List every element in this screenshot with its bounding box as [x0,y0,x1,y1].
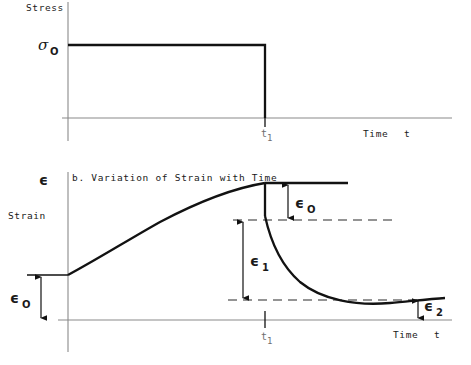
time-word: Time [393,329,418,340]
panel-b-group: b. Variation of Strain with Time ϵ Strai… [8,172,452,352]
time-symbol: t [434,329,440,340]
panel-b-y-axis-label: Strain [8,210,46,221]
dimension-eps0-right: ϵ O [288,185,316,218]
sigma-symbol: σ [38,36,49,54]
delayed-recovery-curve [265,216,445,304]
dimension-eps0-left: ϵ O [10,275,68,318]
eps1-symbol: ϵ [250,253,259,269]
stress-step-curve [68,45,265,118]
eps0-left-subscript: O [22,299,31,310]
panel-a-sigma0-label: σ O [38,36,59,57]
panel-b-y-axis-symbol: ϵ [39,172,48,188]
sigma-subscript: O [50,46,59,57]
panel-a-x-axis-label: Time t [363,128,410,139]
diagram-canvas: Stress σ O t 1 Time t b. Variation of St… [0,0,471,365]
eps0-right-symbol: ϵ [295,195,304,211]
time-symbol: t [404,128,410,139]
creep-recovery-figure: Stress σ O t 1 Time t b. Variation of St… [0,0,471,365]
creep-loading-curve [68,183,265,275]
eps2-subscript: 2 [436,307,443,318]
panel-a-y-axis-label: Stress [26,2,64,13]
panel-b-title: b. Variation of Strain with Time [72,172,277,183]
dimension-eps1: ϵ 1 [243,222,269,298]
eps0-left-symbol: ϵ [10,290,19,306]
panel-b-t1-label: t 1 [261,331,272,346]
panel-b-x-axis-label: Time t [393,329,440,340]
panel-a-axes [62,2,452,141]
t1-subscript: 1 [267,133,272,143]
time-word: Time [363,128,388,139]
eps0-right-subscript: O [307,204,316,215]
t1-subscript: 1 [267,336,272,346]
panel-a-group: Stress σ O t 1 Time t [26,2,452,143]
panel-a-t1-label: t 1 [261,128,272,143]
eps2-symbol: ϵ [424,298,433,314]
eps1-subscript: 1 [262,262,269,273]
